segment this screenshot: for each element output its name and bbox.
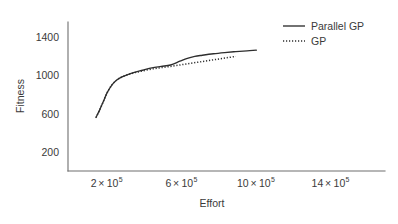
y-tick-label: 1000 (36, 69, 60, 81)
chart-legend: Parallel GPGP (283, 20, 364, 47)
x-tick-mantissa: 14 (312, 177, 324, 189)
x-tick-mantissa: 10 (237, 177, 249, 189)
axis-lines (68, 22, 385, 171)
x-tick-exponent: 5 (119, 176, 123, 183)
x-tick-multiplier: × (250, 177, 256, 189)
line-chart: 20060010001400 2×1056×10510×10514×105 Fi… (0, 0, 398, 224)
x-tick-base: 10 (259, 177, 271, 189)
y-axis-tick-labels: 20060010001400 (36, 31, 60, 158)
legend-label: Parallel GP (311, 20, 364, 32)
x-tick-exponent: 5 (193, 176, 197, 183)
x-tick-multiplier: × (173, 177, 179, 189)
y-tick-label: 600 (41, 108, 59, 120)
x-axis-tick-labels: 2×1056×10510×10514×105 (91, 176, 350, 189)
x-tick-exponent: 5 (346, 176, 350, 183)
x-tick-label: 10×105 (237, 176, 275, 189)
x-tick-base: 10 (107, 177, 119, 189)
series-line-parallel-gp (96, 50, 256, 117)
legend-label: GP (311, 35, 326, 47)
x-tick-base: 10 (181, 177, 193, 189)
data-series-group (96, 50, 256, 117)
x-tick-label: 2×105 (91, 176, 123, 189)
chart-figure: 20060010001400 2×1056×10510×10514×105 Fi… (0, 0, 398, 224)
x-tick-multiplier: × (98, 177, 104, 189)
x-tick-exponent: 5 (271, 176, 275, 183)
x-tick-label: 14×105 (312, 176, 350, 189)
x-tick-base: 10 (334, 177, 346, 189)
x-tick-mantissa: 2 (91, 177, 97, 189)
x-tick-mantissa: 6 (165, 177, 171, 189)
y-tick-label: 1400 (36, 31, 60, 43)
x-tick-multiplier: × (325, 177, 331, 189)
x-axis-title: Effort (200, 197, 225, 209)
x-tick-label: 6×105 (165, 176, 197, 189)
y-axis-title: Fitness (14, 79, 26, 113)
y-tick-label: 200 (41, 146, 59, 158)
